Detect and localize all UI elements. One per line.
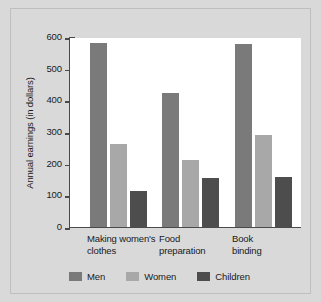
bars-layer (70, 38, 301, 227)
chart-legend: MenWomenChildren (69, 271, 284, 282)
category-label-2: Food preparation (159, 233, 205, 256)
y-axis-tick-label: 0 (57, 221, 62, 232)
legend-swatch-women (126, 272, 139, 281)
y-axis-tick-label: 200 (46, 158, 62, 169)
bar-children-1 (130, 191, 147, 227)
plot-area: 0100200300400500600 (69, 38, 301, 228)
category-label-1: Making women's clothes (87, 233, 155, 256)
legend-item-women[interactable]: Women (126, 271, 176, 282)
legend-label-men: Men (87, 271, 105, 282)
chart-figure: Annual earnings (in dollars) 01002003004… (0, 0, 321, 302)
bar-women-1 (110, 144, 127, 227)
y-axis-title: Annual earnings (in dollars) (24, 38, 36, 228)
y-axis-tick-mark (65, 228, 70, 230)
bar-children-3 (275, 177, 292, 227)
legend-label-children: Children (215, 271, 250, 282)
bar-children-2 (202, 178, 219, 227)
legend-label-women: Women (144, 271, 176, 282)
bar-men-2 (162, 93, 179, 227)
y-axis-tick-label: 600 (46, 31, 62, 42)
legend-item-children[interactable]: Children (197, 271, 250, 282)
bar-men-1 (90, 43, 107, 227)
chart-frame: Annual earnings (in dollars) 01002003004… (10, 8, 311, 294)
y-axis-tick-label: 100 (46, 189, 62, 200)
bar-women-3 (255, 135, 272, 227)
y-axis-tick-label: 300 (46, 126, 62, 137)
category-label-3: Book binding (232, 233, 262, 256)
legend-item-men[interactable]: Men (69, 271, 105, 282)
bar-women-2 (182, 160, 199, 227)
legend-swatch-children (197, 272, 210, 281)
bar-men-3 (235, 44, 252, 227)
legend-swatch-men (69, 272, 82, 281)
y-axis-tick-label: 500 (46, 63, 62, 74)
y-axis-tick-label: 400 (46, 94, 62, 105)
